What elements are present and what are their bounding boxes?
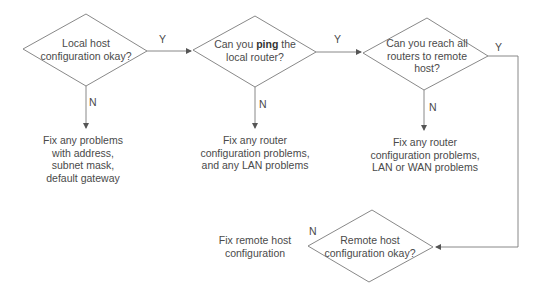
no-label-1: N <box>89 96 97 108</box>
action-text-fix-local: Fix any problems with address, subnet ma… <box>33 134 133 184</box>
yes-label-1: Y <box>159 33 166 45</box>
decision-line: routers to remote <box>377 50 477 63</box>
decision-line: host? <box>377 62 477 75</box>
no-label-4: N <box>309 225 317 237</box>
action-line: and any LAN problems <box>195 159 315 172</box>
action-line: Fix any router <box>365 136 485 149</box>
decision-text-local-host: Local host configuration okay? <box>36 37 136 62</box>
action-line: Fix remote host <box>210 234 300 247</box>
decision-text-reach-routers: Can you reach all routers to remote host… <box>377 37 477 75</box>
text-fragment: Can you <box>214 38 256 50</box>
action-line: configuration problems, <box>195 147 315 160</box>
decision-line: configuration okay? <box>36 50 136 63</box>
action-text-fix-router-wan: Fix any router configuration problems, L… <box>365 136 485 174</box>
action-text-fix-remote: Fix remote host configuration <box>210 234 300 259</box>
action-line: Fix any problems <box>33 134 133 147</box>
decision-text-remote-host: Remote host configuration okay? <box>320 234 420 259</box>
decision-line: Can you reach all <box>377 37 477 50</box>
decision-line: local router? <box>205 51 305 64</box>
decision-line: Local host <box>36 37 136 50</box>
action-line: default gateway <box>33 172 133 185</box>
decision-text-ping-router: Can you ping the local router? <box>205 38 305 63</box>
action-line: configuration <box>210 247 300 260</box>
action-line: LAN or WAN problems <box>365 161 485 174</box>
text-fragment: the <box>278 38 296 50</box>
action-line: subnet mask, <box>33 159 133 172</box>
ping-keyword: ping <box>256 38 278 50</box>
action-line: configuration problems, <box>365 149 485 162</box>
no-label-3: N <box>429 101 437 113</box>
yes-label-2: Y <box>334 33 341 45</box>
action-line: Fix any router <box>195 134 315 147</box>
action-line: with address, <box>33 147 133 160</box>
no-label-2: N <box>259 98 267 110</box>
yes-label-3: Y <box>495 41 502 53</box>
decision-line: configuration okay? <box>320 247 420 260</box>
decision-line: Can you ping the <box>205 38 305 51</box>
decision-line: Remote host <box>320 234 420 247</box>
action-text-fix-router-lan: Fix any router configuration problems, a… <box>195 134 315 172</box>
